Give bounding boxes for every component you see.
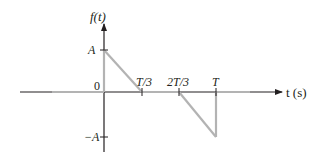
x-tick-label-t-third: T/3 (136, 76, 152, 88)
y-tick-label-a: A (88, 44, 95, 56)
y-tick-label-neg-a: −A (84, 131, 99, 143)
signal-curve (52, 50, 250, 137)
y-tick-label-zero: 0 (94, 80, 100, 92)
waveform-diagram: f(t) A 0 −A T/3 2T/3 T t (s) (0, 0, 317, 162)
x-axis-label: t (s) (286, 86, 307, 99)
y-axis-label: f(t) (90, 10, 106, 23)
plot-canvas (0, 0, 317, 162)
x-tick-label-t: T (212, 76, 219, 88)
x-tick-label-two-t-third: 2T/3 (167, 76, 189, 88)
